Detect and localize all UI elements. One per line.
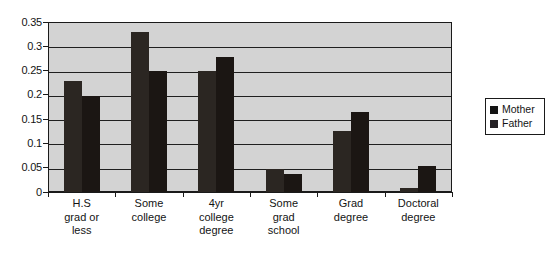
x-axis-label: 4yr college degree [183,197,250,238]
bar-father [284,174,302,192]
x-axis-label: H.S grad or less [48,197,115,238]
bar-mother [333,131,351,192]
bar-father [149,71,167,192]
x-axis-label: Some grad school [250,197,317,238]
legend-swatch-mother-icon [490,106,498,114]
bars-layer [48,22,452,192]
legend-item-father: Father [490,118,540,129]
bar-mother [400,188,418,192]
bar-group [250,22,317,192]
x-axis-label: Doctoral degree [385,197,452,224]
bar-group [385,22,452,192]
chart-legend: Mother Father [485,98,545,135]
bar-mother [64,81,82,192]
bar-father [418,166,436,192]
x-axis-labels: H.S grad or lessSome college4yr college … [48,197,452,257]
bar-father [82,96,100,192]
legend-swatch-father-icon [490,120,498,128]
bar-father [351,112,369,192]
y-axis-ticks: 00.050.10.150.20.250.30.35 [0,0,48,192]
legend-label-mother: Mother [502,104,535,115]
x-axis-tick-mark [452,192,453,197]
bar-mother [131,32,149,192]
bar-group [317,22,384,192]
bar-father [216,57,234,192]
bar-mother [266,169,284,192]
x-axis-label: Grad degree [317,197,384,224]
bar-chart: 00.050.10.150.20.250.30.35 H.S grad or l… [0,0,557,260]
bar-group [115,22,182,192]
bar-group [48,22,115,192]
bar-mother [198,71,216,192]
x-axis-label: Some college [115,197,182,224]
bar-group [183,22,250,192]
legend-item-mother: Mother [490,104,540,115]
legend-label-father: Father [502,118,532,129]
